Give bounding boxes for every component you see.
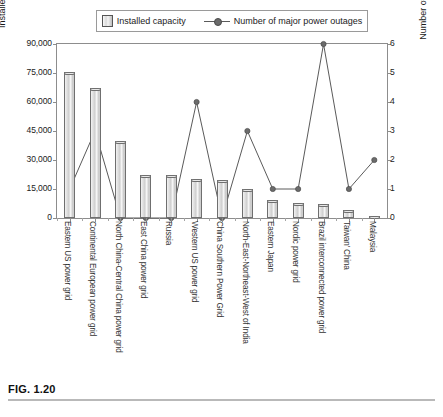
y-axis-left-tick-label: 15,000 <box>4 183 52 193</box>
bar-7 <box>242 189 253 218</box>
y-axis-right-tick-label: 0 <box>390 212 412 222</box>
y-axis-left-tick <box>53 44 57 45</box>
figure-container: Installed capacity Number of major power… <box>0 0 443 417</box>
y-axis-left-tick <box>53 189 57 190</box>
outages-point-11 <box>346 186 351 191</box>
outages-point-10 <box>321 41 326 46</box>
bar-0 <box>64 72 75 218</box>
bar-10 <box>318 204 329 219</box>
bar-5 <box>191 179 202 218</box>
x-axis-label-4: Russia <box>164 221 173 245</box>
x-axis-label-3: East China power grid <box>139 221 148 298</box>
y-axis-left-tick-label: 60,000 <box>4 96 52 106</box>
y-axis-left-tick <box>53 160 57 161</box>
y-axis-left-tick-label: 90,000 <box>4 38 52 48</box>
y-axis-right-tick-label: 5 <box>390 67 412 77</box>
x-axis-label-6: China Southern Power Grid <box>215 221 224 317</box>
x-axis-label-12: Malaysia <box>368 221 377 252</box>
y-axis-left-tick-label: 30,000 <box>4 154 52 164</box>
outages-point-7 <box>245 128 250 133</box>
y-axis-left-tick-label: 45,000 <box>4 125 52 135</box>
y-axis-left-tick-label: 75,000 <box>4 67 52 77</box>
x-axis-label-2: North China-Central China power grid <box>114 221 123 353</box>
legend-item-power-outages: Number of major power outages <box>204 16 363 26</box>
y-axis-right-tick-label: 4 <box>390 96 412 106</box>
y-axis-left-tick <box>53 131 57 132</box>
legend-item-installed-capacity: Installed capacity <box>102 15 186 27</box>
bar-9 <box>293 203 304 218</box>
y-axis-left-tick <box>53 73 57 74</box>
x-axis-label-10: Brazil interconnected power grid <box>317 221 326 333</box>
outages-point-12 <box>372 157 377 162</box>
bar-6 <box>217 180 228 218</box>
bar-4 <box>166 175 177 218</box>
outages-point-9 <box>296 186 301 191</box>
x-axis-label-5: Western US power grid <box>190 221 199 302</box>
legend-label-installed-capacity: Installed capacity <box>117 16 186 26</box>
y-axis-right-title: Number of major power outages <box>418 0 428 58</box>
y-axis-left-tick-label: 0 <box>4 212 52 222</box>
x-axis-label-0: Eastern US power grid <box>63 221 72 300</box>
y-axis-left-tick <box>53 102 57 103</box>
x-axis-label-7: North-East-Northeast-West of India <box>241 221 250 344</box>
chart-legend: Installed capacity Number of major power… <box>96 10 368 32</box>
legend-label-power-outages: Number of major power outages <box>234 16 363 26</box>
bar-3 <box>140 175 151 218</box>
x-axis-label-1: Continental European power grid <box>88 221 97 336</box>
y-axis-right-tick-label: 6 <box>390 38 412 48</box>
x-axis-label-11: Taiwan' China <box>342 221 351 270</box>
bar-1 <box>90 88 101 219</box>
line-marker-icon <box>204 17 230 26</box>
caption-rule <box>8 399 435 401</box>
bar-8 <box>267 200 278 218</box>
y-axis-right-tick-label: 2 <box>390 154 412 164</box>
bar-11 <box>343 210 354 218</box>
bar-2 <box>115 141 126 218</box>
y-axis-right-tick-label: 1 <box>390 183 412 193</box>
plot-area <box>56 43 388 219</box>
outages-point-8 <box>270 186 275 191</box>
x-axis-labels: Eastern US power gridContinental Europea… <box>56 221 386 371</box>
y-axis-right-tick-label: 3 <box>390 125 412 135</box>
bar-swatch-icon <box>102 15 113 27</box>
x-axis-label-8: Eastern Japan <box>266 221 275 272</box>
outages-point-5 <box>194 99 199 104</box>
x-axis-label-9: Nordic power grid <box>291 221 300 283</box>
figure-caption: FIG. 1.20 <box>8 383 56 395</box>
